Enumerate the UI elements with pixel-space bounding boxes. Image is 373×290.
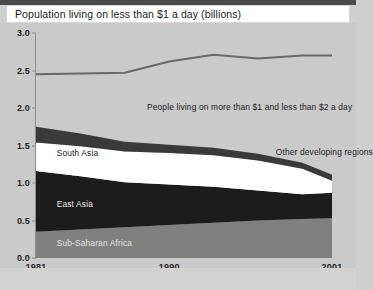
annotation-poverty-band: People living on more than $1 and less t… <box>147 102 352 112</box>
y-tick-label: 0.5 <box>0 216 30 226</box>
stacked-area-chart <box>36 33 332 258</box>
y-tick-label: 3.0 <box>0 28 30 38</box>
figure-bottom-margin <box>0 268 356 290</box>
y-tick-label: 2.0 <box>0 103 30 113</box>
annotation-other-developing-regions: Other developing regions <box>276 147 373 157</box>
y-tick-label: 1.0 <box>0 178 30 188</box>
annotation-east-asia: East Asia <box>57 199 93 209</box>
chart-figure: 3.02.52.01.51.00.50.0 198119902001 Peopl… <box>0 23 356 290</box>
y-tick-label: 1.5 <box>0 141 30 151</box>
chart-title-bar: Population living on less than $1 a day … <box>6 5 350 23</box>
y-tick-label: 2.5 <box>0 66 30 76</box>
total-poverty-line <box>36 55 332 75</box>
page-title: Population living on less than $1 a day … <box>7 8 241 20</box>
annotation-sub-saharan-africa: Sub-Saharan Africa <box>57 238 132 248</box>
annotation-south-asia: South Asia <box>57 148 99 158</box>
plot-area: People living on more than $1 and less t… <box>36 33 332 258</box>
